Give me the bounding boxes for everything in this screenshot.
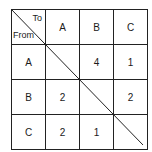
matrix-row: A 4 1	[12, 45, 148, 80]
column-header-b: B	[80, 10, 114, 45]
matrix-table: To From A B C A 4 1 B 2 2 C 2 1	[11, 9, 148, 150]
cell-a-b: 4	[80, 45, 114, 80]
row-header-c: C	[12, 115, 46, 150]
cell-a-a	[46, 45, 80, 80]
matrix-row: C 2 1	[12, 115, 148, 150]
row-header-a: A	[12, 45, 46, 80]
header-row: To From A B C	[12, 10, 148, 45]
cell-b-c: 2	[114, 80, 148, 115]
cell-b-a: 2	[46, 80, 80, 115]
column-header-c: C	[114, 10, 148, 45]
column-header-a: A	[46, 10, 80, 45]
corner-cell: To From	[12, 10, 46, 45]
to-label: To	[32, 13, 42, 23]
transition-matrix: To From A B C A 4 1 B 2 2 C 2 1	[11, 9, 143, 145]
matrix-row: B 2 2	[12, 80, 148, 115]
cell-c-c	[114, 115, 148, 150]
cell-c-b: 1	[80, 115, 114, 150]
cell-b-b	[80, 80, 114, 115]
row-header-b: B	[12, 80, 46, 115]
cell-a-c: 1	[114, 45, 148, 80]
cell-c-a: 2	[46, 115, 80, 150]
from-label: From	[13, 30, 34, 40]
